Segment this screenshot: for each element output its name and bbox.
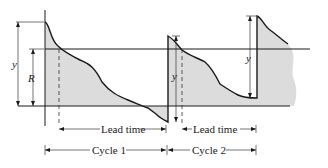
- cycle-1-label: Cycle 1: [92, 144, 126, 156]
- y-label-mid: y: [171, 70, 177, 82]
- cycle-2-label: Cycle 2: [192, 144, 226, 156]
- r-label: R: [27, 72, 35, 84]
- cycle-1-shaded-area: [45, 22, 168, 122]
- cycle-3-shaded-area: [257, 16, 296, 106]
- y-label-right: y: [245, 52, 251, 64]
- lead-time-1-label: Lead time: [101, 123, 145, 135]
- lead-time-2-label: Lead time: [193, 123, 237, 135]
- inventory-diagram: y R y y Lead time Lead time Cycle 1 Cycl…: [0, 0, 328, 168]
- y-label-left: y: [11, 58, 17, 70]
